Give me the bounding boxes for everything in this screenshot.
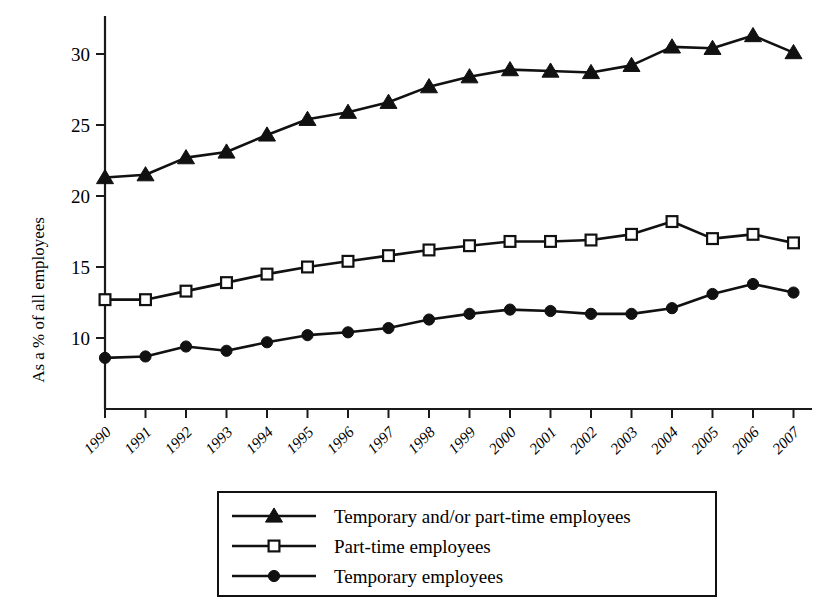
marker-open-square	[343, 256, 354, 267]
marker-filled-circle	[423, 314, 434, 325]
marker-open-square	[100, 294, 111, 305]
marker-open-square	[707, 233, 718, 244]
x-tick-label: 1996	[323, 423, 357, 457]
x-tick-label: 1992	[161, 423, 195, 457]
x-tick-label: 2007	[769, 422, 804, 457]
y-tick-label: 20	[71, 186, 90, 207]
marker-filled-circle	[747, 278, 758, 289]
y-axis-title: As a % of all employees	[29, 217, 48, 383]
marker-filled-circle	[788, 287, 799, 298]
chart-container: As a % of all employees 1015202530 19901…	[0, 0, 824, 610]
y-axis-title-text: As a % of all employees	[29, 217, 48, 383]
marker-open-square	[626, 229, 637, 240]
marker-filled-circle	[180, 341, 191, 352]
marker-open-square	[505, 236, 516, 247]
x-tick-label: 2006	[728, 423, 762, 457]
marker-filled-circle	[383, 322, 394, 333]
marker-filled-triangle	[785, 45, 802, 59]
marker-filled-circle	[464, 308, 475, 319]
x-tick-label: 1998	[404, 423, 438, 457]
marker-filled-circle	[504, 304, 515, 315]
x-tick-label: 2005	[688, 423, 722, 457]
marker-filled-circle	[545, 305, 556, 316]
marker-filled-triangle	[218, 144, 235, 158]
marker-filled-circle	[99, 352, 110, 363]
marker-open-square	[221, 277, 232, 288]
marker-filled-triangle	[745, 27, 762, 41]
legend-label: Temporary employees	[334, 566, 503, 587]
x-tick-label: 1997	[364, 422, 399, 457]
x-tick-label: 1994	[242, 423, 276, 457]
y-tick-label: 15	[71, 257, 90, 278]
line-chart-plot: As a % of all employees 1015202530 19901…	[0, 0, 824, 610]
marker-filled-circle	[268, 570, 279, 581]
x-tick-label: 1993	[202, 423, 236, 457]
marker-filled-triangle	[623, 57, 640, 71]
x-tick-label: 1995	[283, 423, 317, 457]
marker-filled-circle	[342, 327, 353, 338]
legend-label: Part-time employees	[334, 536, 491, 557]
series-2	[100, 216, 799, 305]
marker-open-square	[383, 250, 394, 261]
marker-open-square	[464, 240, 475, 251]
series-line	[105, 222, 794, 300]
marker-filled-circle	[261, 337, 272, 348]
series-3	[99, 278, 799, 363]
x-tick-label: 2000	[485, 423, 519, 457]
marker-open-square	[667, 216, 678, 227]
x-tick-label: 2001	[526, 423, 560, 457]
x-tick-label: 1990	[80, 423, 114, 457]
x-tick-label: 1991	[121, 423, 155, 457]
marker-open-square	[140, 294, 151, 305]
marker-filled-circle	[302, 330, 313, 341]
series-1	[97, 27, 803, 183]
x-axis-ticks: 1990199119921993199419951996199719981999…	[80, 409, 803, 457]
marker-open-square	[424, 245, 435, 256]
x-tick-label: 2003	[607, 423, 641, 457]
marker-open-square	[262, 269, 273, 280]
series-line	[105, 284, 794, 358]
marker-filled-circle	[626, 308, 637, 319]
marker-filled-triangle	[137, 167, 154, 181]
marker-open-square	[302, 262, 313, 273]
marker-open-square	[586, 235, 597, 246]
series-line	[105, 36, 794, 178]
x-tick-label: 2004	[647, 423, 681, 457]
x-tick-label: 2002	[566, 423, 600, 457]
marker-filled-circle	[221, 345, 232, 356]
marker-open-square	[748, 229, 759, 240]
y-tick-label: 25	[71, 115, 90, 136]
marker-open-square	[545, 236, 556, 247]
x-tick-label: 1999	[445, 423, 479, 457]
marker-open-square	[269, 541, 280, 552]
marker-open-square	[181, 286, 192, 297]
marker-filled-circle	[140, 351, 151, 362]
data-series-layer	[97, 27, 803, 363]
y-tick-label: 30	[71, 44, 90, 65]
marker-filled-circle	[585, 308, 596, 319]
marker-filled-circle	[707, 288, 718, 299]
y-tick-label: 10	[71, 328, 90, 349]
marker-open-square	[788, 237, 799, 248]
marker-filled-circle	[666, 303, 677, 314]
legend-label: Temporary and/or part-time employees	[334, 506, 631, 527]
chart-legend: Temporary and/or part-time employeesPart…	[218, 492, 716, 596]
